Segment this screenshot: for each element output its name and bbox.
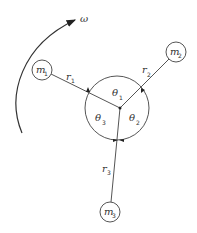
svg-text:2: 2 <box>147 71 151 78</box>
mass-m2: m 2 <box>166 42 186 62</box>
svg-text:2: 2 <box>136 119 140 126</box>
svg-text:θ: θ <box>95 112 101 123</box>
svg-text:1: 1 <box>119 94 123 101</box>
angle-arrow-icon <box>86 87 90 92</box>
mass-m1: m 1 <box>32 60 52 80</box>
svg-text:1: 1 <box>44 70 48 77</box>
label-theta2: θ 2 <box>129 112 140 126</box>
svg-text:θ: θ <box>112 87 118 98</box>
omega-label: ω <box>80 13 88 24</box>
three-mass-rotor-diagram: ω m 1 m 2 m 3 r 1 r 2 r 3 θ 1 <box>0 0 197 233</box>
svg-text:2: 2 <box>178 52 182 59</box>
svg-text:3: 3 <box>112 212 116 219</box>
label-theta3: θ 3 <box>95 112 106 126</box>
mass-m3: m 3 <box>100 202 120 222</box>
svg-text:3: 3 <box>107 169 111 176</box>
svg-text:3: 3 <box>102 119 106 126</box>
svg-text:θ: θ <box>129 112 135 123</box>
hub-circle <box>85 76 149 140</box>
arm-r3 <box>111 108 120 202</box>
svg-text:1: 1 <box>71 77 75 84</box>
label-r2: r 2 <box>142 64 151 78</box>
label-theta1: θ 1 <box>112 87 123 101</box>
label-r3: r 3 <box>102 163 111 176</box>
center-point <box>119 107 122 110</box>
